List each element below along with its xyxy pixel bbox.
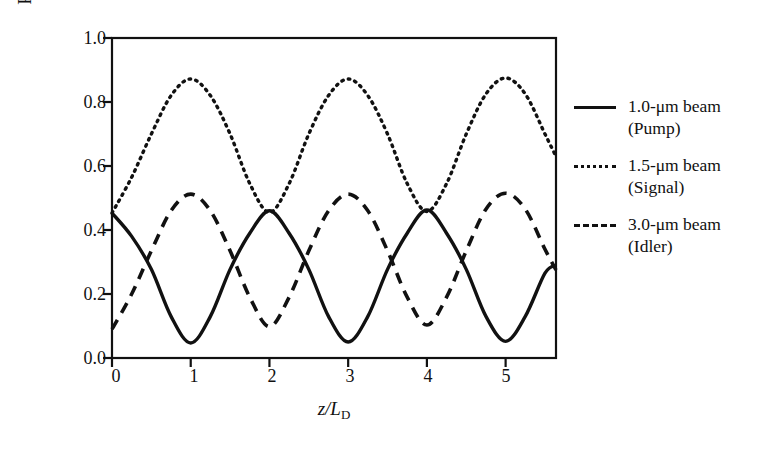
legend-line-sample-dashed-icon xyxy=(572,215,618,235)
legend-item-idler: 3.0-μm beam(Idler) xyxy=(572,213,758,258)
legend-label-line2: (Signal) xyxy=(628,176,721,198)
legend-label-line1: 3.0-μm beam xyxy=(628,214,721,234)
legend-label-line1: 1.0-μm beam xyxy=(628,96,721,116)
legend-item-signal: 1.5-μm beam(Signal) xyxy=(572,154,758,199)
legend-line-sample-dotted-icon xyxy=(572,156,618,176)
data-curves xyxy=(112,78,556,343)
legend-item-pump: 1.0-μm beam(Pump) xyxy=(572,95,758,140)
legend-label-signal: 1.5-μm beam(Signal) xyxy=(628,154,721,199)
curve-dashed xyxy=(112,193,556,329)
curve-solid xyxy=(112,210,556,343)
legend-label-line2: (Idler) xyxy=(628,235,721,257)
figure-chart: Relative photon numbers 1.0 0.8 0.6 0.4 … xyxy=(0,0,764,449)
axis-ticks xyxy=(103,38,506,367)
legend-label-line2: (Pump) xyxy=(628,117,721,139)
legend-label-line1: 1.5-μm beam xyxy=(628,155,721,175)
legend-label-idler: 3.0-μm beam(Idler) xyxy=(628,213,721,258)
legend-label-pump: 1.0-μm beam(Pump) xyxy=(628,95,721,140)
legend: 1.0-μm beam(Pump) 1.5-μm beam(Signal) 3.… xyxy=(572,95,758,271)
legend-line-sample-solid-icon xyxy=(572,97,618,117)
curve-dotted xyxy=(112,78,556,213)
